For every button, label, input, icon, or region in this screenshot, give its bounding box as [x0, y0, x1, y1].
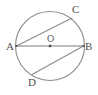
point-label-c: C: [72, 3, 79, 15]
chord-segment-bd: [32, 46, 84, 75]
center-point-dot-o: [49, 45, 51, 47]
circle-geometry-figure: A B C D O: [0, 0, 98, 95]
point-label-a: A: [6, 40, 14, 52]
vertex-dot-a: [16, 45, 18, 47]
center-label-o: O: [47, 33, 54, 44]
point-label-d: D: [28, 76, 36, 88]
point-label-b: B: [85, 40, 92, 52]
geometry-canvas: A B C D O: [0, 0, 98, 95]
